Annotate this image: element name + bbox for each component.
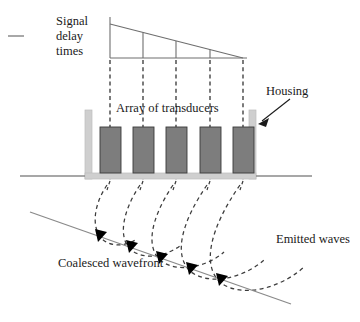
emitted-wave-arcs: [95, 185, 305, 290]
figure-container: Signal delay times Array of transducers …: [0, 0, 360, 322]
transducer-element: [133, 127, 154, 173]
transducer-element: [100, 127, 121, 173]
wave-stub-2: [140, 181, 143, 190]
wave-stub-4: [207, 181, 210, 190]
transducer-element: [166, 127, 187, 173]
wave-stub-5: [240, 181, 243, 190]
signal-delay-times-label: Signal delay times: [56, 14, 106, 58]
housing-callout-arrow: [258, 99, 290, 127]
housing-arrow-shaft: [262, 99, 290, 121]
wave-stub-3: [173, 181, 176, 190]
housing-label: Housing: [266, 84, 308, 99]
coalesced-wavefront-label: Coalesced wavefront: [58, 256, 163, 271]
housing-left-wall: [85, 110, 92, 179]
wavefront-arrowhead: [216, 273, 228, 286]
diagram-canvas: [0, 0, 360, 322]
wave-origin-stubs: [107, 181, 243, 190]
emitted-waves-label: Emitted waves: [276, 232, 350, 247]
wave-stub-1: [107, 181, 110, 190]
transducer-element: [200, 127, 221, 173]
wavefront-arrowhead: [95, 229, 107, 242]
wavefront-arrowhead: [126, 240, 138, 253]
signal-delay-graph: [110, 17, 247, 58]
housing-floor: [85, 173, 256, 179]
array-of-transducers-label: Array of transducers: [116, 101, 219, 116]
transducer-element: [233, 127, 254, 173]
transducer-array: [100, 127, 254, 173]
